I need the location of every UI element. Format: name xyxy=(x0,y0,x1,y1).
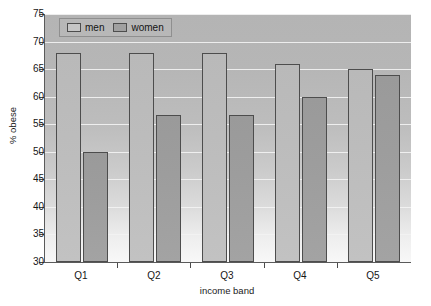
bar-chart: % obese 30354045505560657075 Q1Q2Q3Q4Q5 … xyxy=(0,0,431,306)
legend-swatch-men xyxy=(67,23,81,32)
legend-entry-men: men xyxy=(67,23,104,33)
legend-label-women: women xyxy=(131,23,163,33)
legend-swatch-women xyxy=(113,23,127,32)
x-axis: Q1Q2Q3Q4Q5 xyxy=(0,0,431,306)
x-tick-mark xyxy=(117,263,118,268)
x-tick-label-q3: Q3 xyxy=(197,271,257,281)
x-tick-label-q4: Q4 xyxy=(270,271,330,281)
x-tick-mark xyxy=(337,263,338,268)
x-tick-label-q1: Q1 xyxy=(51,271,111,281)
x-axis-title: income band xyxy=(44,285,410,296)
legend-label-men: men xyxy=(85,23,104,33)
x-tick-mark xyxy=(190,263,191,268)
legend: menwomen xyxy=(59,18,172,37)
x-tick-mark xyxy=(264,263,265,268)
legend-entry-women: women xyxy=(113,23,163,33)
x-tick-label-q2: Q2 xyxy=(124,271,184,281)
x-tick-label-q5: Q5 xyxy=(343,271,403,281)
